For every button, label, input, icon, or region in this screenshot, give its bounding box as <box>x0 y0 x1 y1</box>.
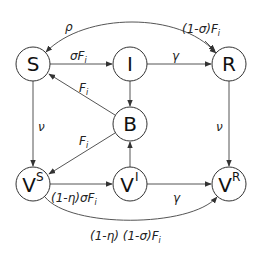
node-r-label: R <box>222 52 236 76</box>
label-top-curve-main: (1-σ)F <box>182 22 219 36</box>
edge-top-arrow-r <box>205 41 215 51</box>
label-top-curve: (1-σ)Fi <box>182 22 221 38</box>
node-i: I <box>113 47 147 81</box>
node-vr-label: V <box>218 173 232 197</box>
node-vi-sup: I <box>135 170 139 184</box>
label-s-to-i-main: σF <box>70 49 86 63</box>
label-vi-to-vr: γ <box>173 191 181 205</box>
node-vs: V S <box>16 167 50 201</box>
label-bottom-curve-sub: i <box>159 236 162 245</box>
node-s: S <box>16 47 50 81</box>
label-r-to-vr: ν <box>216 120 223 134</box>
node-vs-label: V <box>22 173 36 197</box>
node-s-label: S <box>27 52 40 76</box>
node-vs-sup: S <box>36 170 44 184</box>
label-s-to-vs: ν <box>38 120 45 134</box>
node-vi: V I <box>113 167 147 201</box>
compartment-diagram: S I R B V S V I V R ρ (1-σ)Fi σFi γ Fi F… <box>0 0 259 255</box>
label-bottom-curve: (1-η) (1-σ)Fi <box>90 229 162 245</box>
label-top-curve-sub: i <box>218 29 221 38</box>
label-b-to-vs-sub: i <box>86 141 89 150</box>
label-bottom-curve-main: (1-η) (1-σ)F <box>90 229 160 243</box>
label-vs-to-vi-main: (1-η)σF <box>51 191 96 205</box>
label-vs-to-vi-sub: i <box>94 198 97 207</box>
label-vs-to-vi: (1-η)σFi <box>51 191 97 207</box>
label-i-to-r: γ <box>172 49 180 63</box>
node-i-label: I <box>127 52 133 76</box>
node-r: R <box>212 47 246 81</box>
node-b-label: B <box>123 112 137 136</box>
label-rho: ρ <box>65 20 73 34</box>
label-s-to-i: σFi <box>70 49 88 65</box>
node-b: B <box>113 107 147 141</box>
label-b-to-s: Fi <box>79 81 89 97</box>
label-b-to-s-sub: i <box>86 88 89 97</box>
node-vi-label: V <box>120 173 134 197</box>
node-vr-sup: R <box>232 170 240 184</box>
edge-s-to-r-curve <box>190 34 216 53</box>
node-vr: V R <box>212 167 246 201</box>
label-b-to-vs: Fi <box>79 134 89 150</box>
